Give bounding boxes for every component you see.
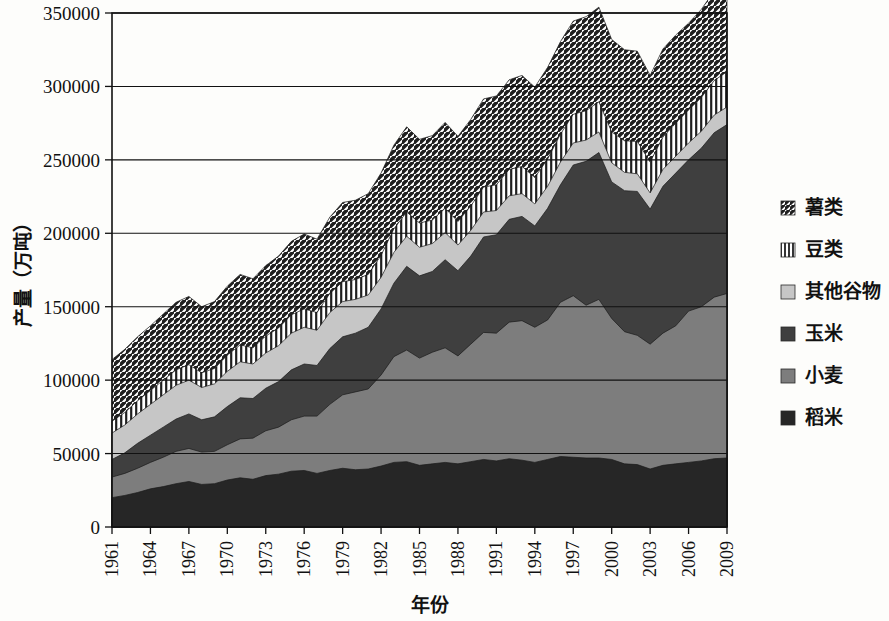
- x-tick-label: 2009: [717, 541, 737, 577]
- x-tick-label: 1964: [140, 541, 160, 577]
- legend-label: 其他谷物: [805, 280, 881, 302]
- x-tick-label: 1961: [102, 541, 122, 577]
- legend-item-稻米[interactable]: 稻米: [781, 406, 844, 428]
- chart-canvas: 0500001000001500002000002500003000003500…: [0, 0, 889, 621]
- y-axis-tick-labels: 0500001000001500002000002500003000003500…: [43, 3, 100, 538]
- y-tick-label: 150000: [43, 297, 100, 318]
- x-tick-label: 1979: [333, 541, 353, 577]
- y-tick-label: 50000: [53, 444, 101, 465]
- x-tick-label: 2003: [640, 541, 660, 577]
- legend-swatch-medium-gray: [781, 369, 795, 383]
- x-tick-label: 1997: [563, 541, 583, 577]
- x-tick-label: 1973: [256, 541, 276, 577]
- x-axis-ticks-group: [112, 527, 727, 534]
- y-tick-label: 350000: [43, 3, 100, 24]
- x-tick-label: 2000: [602, 541, 622, 577]
- y-tick-label: 0: [91, 517, 101, 538]
- x-axis-title: 年份: [411, 594, 450, 616]
- legend-swatch-darkest: [781, 411, 795, 425]
- x-tick-label: 1991: [486, 541, 506, 577]
- y-tick-label: 200000: [43, 223, 100, 244]
- legend-label: 稻米: [805, 406, 844, 428]
- legend-label: 小麦: [805, 364, 844, 386]
- x-tick-label: 1988: [448, 541, 468, 577]
- x-tick-label: 1976: [294, 541, 314, 577]
- x-tick-label: 1982: [371, 541, 391, 577]
- legend-swatch-dark-gray: [781, 327, 795, 341]
- legend: 薯类豆类其他谷物玉米小麦稻米: [781, 196, 881, 428]
- legend-item-薯类[interactable]: 薯类: [781, 196, 843, 218]
- legend-swatch-light-gray: [781, 285, 795, 299]
- x-tick-label: 1967: [179, 541, 199, 577]
- legend-item-豆类[interactable]: 豆类: [781, 238, 843, 260]
- x-tick-label: 1994: [525, 541, 545, 577]
- legend-label: 玉米: [805, 322, 844, 344]
- y-axis-title: 产量（万吨）: [12, 213, 34, 327]
- stacked-area-chart: 0500001000001500002000002500003000003500…: [0, 0, 889, 621]
- x-tick-label: 1970: [217, 541, 237, 577]
- y-tick-label: 300000: [43, 76, 100, 97]
- legend-item-其他谷物[interactable]: 其他谷物: [781, 280, 881, 302]
- legend-item-小麦[interactable]: 小麦: [781, 364, 844, 386]
- x-tick-label: 1985: [410, 541, 430, 577]
- x-tick-label: 2006: [679, 541, 699, 577]
- legend-swatch-diagonal: [781, 201, 795, 215]
- legend-label: 豆类: [805, 238, 843, 260]
- legend-swatch-vertical: [781, 243, 795, 257]
- legend-item-玉米[interactable]: 玉米: [781, 322, 844, 344]
- area-series-group: [112, 0, 727, 527]
- y-tick-label: 250000: [43, 150, 100, 171]
- y-tick-label: 100000: [43, 370, 100, 391]
- x-axis-tick-labels: 1961196419671970197319761979198219851988…: [102, 541, 737, 577]
- legend-label: 薯类: [804, 196, 843, 218]
